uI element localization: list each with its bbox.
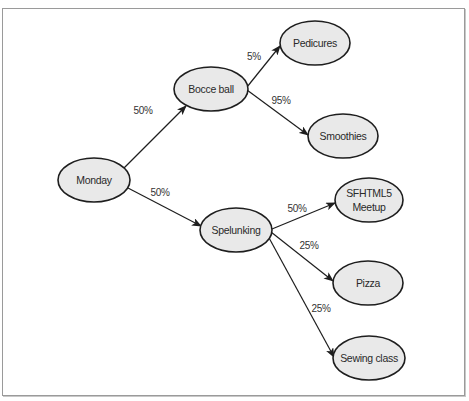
edge-spelunking-pizza: 25% — [271, 232, 333, 281]
node-monday: Monday — [58, 158, 130, 202]
node-label: Pizza — [356, 277, 381, 289]
edge-label: 25% — [299, 240, 319, 251]
node-pedicures: Pedicures — [280, 21, 350, 65]
node-sfhtml5-meetup: SFHTML5 Meetup — [335, 178, 403, 222]
edge-spelunking-sewing: 25% — [268, 236, 334, 357]
edge-spelunking-sfhtml5: 50% — [272, 203, 335, 230]
node-label: Spelunking — [212, 224, 261, 236]
edge-label: 50% — [150, 187, 170, 198]
edge-label: 50% — [287, 203, 307, 214]
node-smoothies: Smoothies — [308, 114, 378, 158]
edge-label: 25% — [311, 303, 331, 314]
node-label: Bocce ball — [188, 83, 233, 95]
probability-tree-diagram: 50% 50% 5% 95% 50% 25% 25% Monday Bocce … — [0, 0, 469, 401]
edge-bocce-pedicures: 5% — [247, 46, 280, 87]
node-spelunking: Spelunking — [200, 208, 272, 252]
node-label: Smoothies — [320, 130, 367, 142]
node-bocce-ball: Bocce ball — [174, 67, 248, 111]
node-pizza: Pizza — [333, 261, 403, 305]
edge-label: 50% — [133, 105, 153, 116]
node-label: Sewing class — [340, 352, 398, 364]
edge-monday-bocce: 50% — [124, 105, 186, 169]
node-label: Pedicures — [293, 37, 337, 49]
edge-bocce-smoothies: 95% — [247, 90, 308, 135]
node-label-line1: SFHTML5 — [346, 187, 392, 199]
node-label-line2: Meetup — [352, 201, 386, 213]
edge-label: 5% — [247, 51, 261, 62]
edge-monday-spelunking: 50% — [128, 187, 201, 227]
edge-label: 95% — [271, 95, 291, 106]
node-sewing-class: Sewing class — [333, 336, 405, 380]
node-label: Monday — [76, 174, 113, 186]
